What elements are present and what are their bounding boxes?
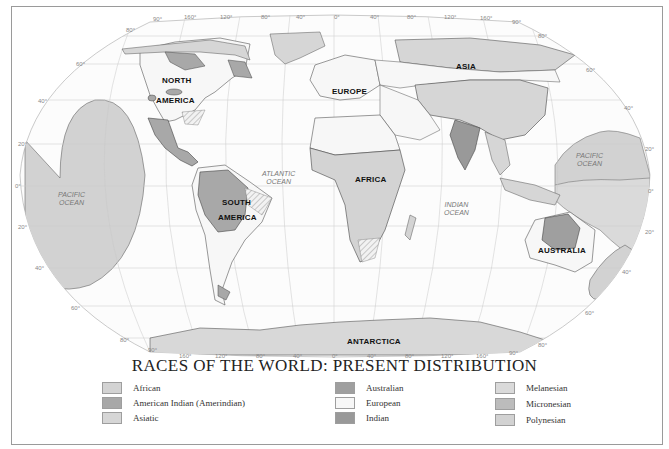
tick-lon-top: 90° bbox=[512, 19, 521, 25]
legend-item-polynesian: Polynesian bbox=[495, 413, 566, 427]
tick-lon-top: 0° bbox=[334, 14, 340, 20]
label-atlantic-ocean: ATLANTICOCEAN bbox=[262, 170, 295, 186]
tick-lon-top: 160° bbox=[480, 15, 492, 21]
legend-label: Asiatic bbox=[133, 413, 159, 423]
label-indian-ocean: INDIANOCEAN bbox=[444, 201, 469, 217]
legend-label: African bbox=[133, 383, 160, 393]
tick-lon-top: 160° bbox=[184, 14, 196, 20]
tick-lat-left: 20° bbox=[18, 224, 27, 230]
legend-swatch bbox=[102, 397, 122, 409]
legend-item-micronesian: Micronesian bbox=[495, 397, 571, 411]
legend-item-american-indian: American Indian (Amerindian) bbox=[102, 396, 245, 410]
map-title: RACES OF THE WORLD: PRESENT DISTRIBUTION bbox=[0, 356, 669, 376]
tick-lat-left: 40° bbox=[38, 98, 47, 104]
tick-lat-right: 40° bbox=[622, 269, 631, 275]
label-australia: AUSTRALIA bbox=[538, 246, 586, 255]
legend-item-indian: Indian bbox=[335, 411, 389, 425]
legend-swatch bbox=[495, 414, 515, 426]
tick-lat-right: 80° bbox=[538, 33, 547, 39]
legend-label: American Indian (Amerindian) bbox=[133, 398, 245, 408]
tick-lat-left: 60° bbox=[71, 305, 80, 311]
label-pacific-ocean-east: PACIFICOCEAN bbox=[576, 152, 603, 168]
legend-swatch bbox=[335, 382, 355, 394]
label-south-america-1: SOUTH bbox=[222, 198, 251, 207]
legend-item-european: European bbox=[335, 396, 400, 410]
legend-label: Melanesian bbox=[526, 383, 567, 393]
label-europe: EUROPE bbox=[332, 87, 367, 96]
legend-item-asiatic: Asiatic bbox=[102, 411, 159, 425]
legend-swatch bbox=[495, 398, 515, 410]
label-africa: AFRICA bbox=[355, 175, 386, 184]
legend-item-melanesian: Melanesian bbox=[495, 381, 567, 395]
legend-swatch bbox=[102, 412, 122, 424]
label-south-america-2: AMERICA bbox=[218, 213, 257, 222]
tick-lat-right: 80° bbox=[538, 342, 547, 348]
tick-lat-left: 80° bbox=[120, 337, 129, 343]
legend-swatch bbox=[335, 397, 355, 409]
tick-lat-right: 20° bbox=[645, 229, 654, 235]
tick-lat-left: 20° bbox=[18, 141, 27, 147]
tick-lat-right: 60° bbox=[585, 310, 594, 316]
legend-label: Indian bbox=[366, 413, 389, 423]
legend-label: Polynesian bbox=[526, 415, 566, 425]
tick-lon-top: 40° bbox=[296, 14, 305, 20]
tick-lon-top: 120° bbox=[220, 14, 232, 20]
tick-lat-left: 60° bbox=[76, 61, 85, 67]
amerindian-us-2 bbox=[148, 95, 156, 101]
label-asia: ASIA bbox=[456, 62, 476, 71]
tick-lat-left: 40° bbox=[35, 265, 44, 271]
tick-lon-top: 40° bbox=[370, 14, 379, 20]
label-antarctica: ANTARCTICA bbox=[347, 337, 401, 346]
tick-lat-right: 40° bbox=[624, 105, 633, 111]
legend-label: European bbox=[366, 398, 400, 408]
tick-lon-bottom: 90° bbox=[148, 347, 157, 353]
label-north-america-1: NORTH bbox=[162, 76, 191, 85]
tick-lon-top: 80° bbox=[261, 14, 270, 20]
tick-lon-top: 120° bbox=[444, 14, 456, 20]
legend-swatch bbox=[102, 382, 122, 394]
tick-lon-top: 90° bbox=[153, 16, 162, 22]
label-pacific-ocean-west: PACIFICOCEAN bbox=[58, 191, 85, 207]
legend-label: Micronesian bbox=[526, 399, 571, 409]
amerindian-us-1 bbox=[166, 89, 182, 95]
tick-lat-right: 60° bbox=[586, 67, 595, 73]
label-north-america-2: AMERICA bbox=[156, 96, 195, 105]
tick-lon-top: 80° bbox=[407, 14, 416, 20]
tick-lat-left: 0° bbox=[15, 183, 21, 189]
legend-item-african: African bbox=[102, 381, 160, 395]
tick-lat-left: 80° bbox=[126, 27, 135, 33]
tick-lat-right: 0° bbox=[648, 188, 654, 194]
legend-label: Australian bbox=[366, 383, 404, 393]
legend-swatch bbox=[335, 412, 355, 424]
tick-lat-right: 20° bbox=[645, 146, 654, 152]
legend-item-australian: Australian bbox=[335, 381, 404, 395]
legend-swatch bbox=[495, 382, 515, 394]
